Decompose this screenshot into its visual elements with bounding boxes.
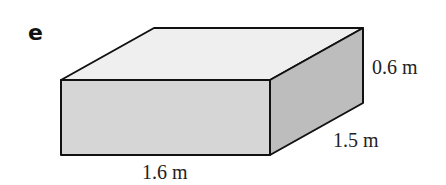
cuboid-diagram xyxy=(0,0,446,185)
depth-label: 1.5 m xyxy=(333,130,379,150)
width-label: 1.6 m xyxy=(142,162,188,182)
height-label: 0.6 m xyxy=(372,57,418,77)
front-face xyxy=(61,80,270,155)
